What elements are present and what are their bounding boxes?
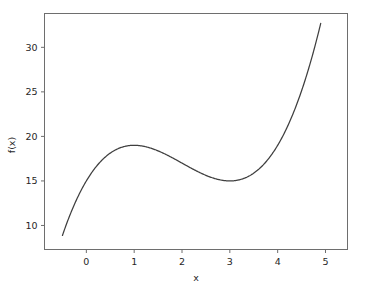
x-axis-title: x: [193, 272, 199, 283]
x-tick-label: 2: [179, 256, 185, 267]
x-tick-label: 3: [227, 256, 233, 267]
x-tick-label: 1: [131, 256, 137, 267]
y-axis-title: f(x): [6, 137, 17, 153]
y-tick-label: 30: [25, 42, 37, 53]
x-tick-label: 0: [83, 256, 89, 267]
x-tick-label: 5: [322, 256, 328, 267]
y-tick-label: 20: [25, 131, 37, 142]
plot-canvas: 012345 1015202530 x f(x): [0, 0, 370, 290]
y-tick-label: 25: [25, 86, 37, 97]
y-tick-label: 10: [25, 220, 37, 231]
chart-figure: 012345 1015202530 x f(x): [0, 0, 370, 290]
y-tick-label: 15: [25, 175, 37, 186]
axes-background: [44, 13, 348, 250]
x-tick-label: 4: [275, 256, 281, 267]
